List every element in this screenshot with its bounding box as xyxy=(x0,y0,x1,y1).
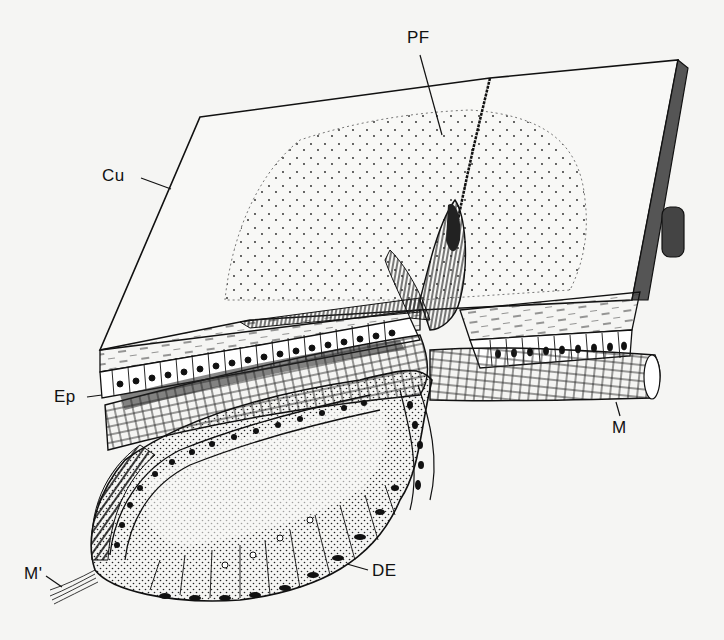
tissue-diagram: PF Cu Ep M M' DE xyxy=(0,0,724,640)
label-m-prime: M' xyxy=(24,565,42,582)
diagram-drawing xyxy=(0,0,724,640)
label-ep: Ep xyxy=(54,388,76,405)
label-m: M xyxy=(612,419,627,436)
label-cu: Cu xyxy=(102,167,125,184)
muscle-fibers-m-prime xyxy=(50,570,98,604)
label-de: DE xyxy=(372,562,397,579)
label-pf: PF xyxy=(407,29,430,46)
muscle-bundle-right xyxy=(430,348,660,401)
muscle-stub xyxy=(662,207,684,257)
